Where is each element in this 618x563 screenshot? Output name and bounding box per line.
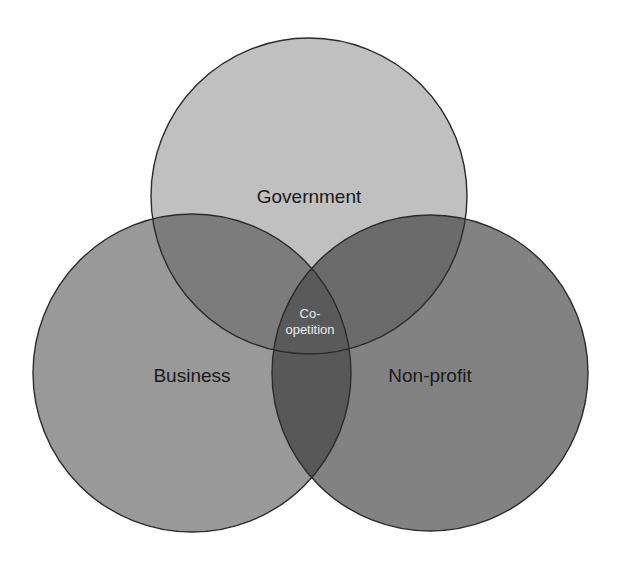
nonprofit-label: Non-profit bbox=[388, 365, 472, 386]
coopetition-label-line1: Co- bbox=[300, 306, 321, 321]
business-label: Business bbox=[153, 365, 230, 386]
venn-diagram: Government Business Non-profit Co- opeti… bbox=[0, 0, 618, 563]
coopetition-label-line2: opetition bbox=[285, 322, 334, 337]
government-label: Government bbox=[257, 186, 362, 207]
